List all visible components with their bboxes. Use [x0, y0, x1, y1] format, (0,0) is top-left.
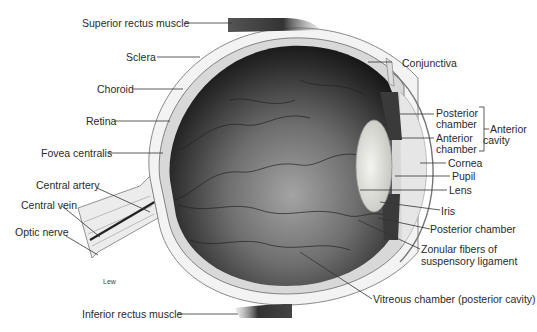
label-conjunctiva: Conjunctiva: [402, 57, 457, 69]
label-choroid: Choroid: [97, 83, 134, 95]
label-sclera: Sclera: [126, 51, 156, 63]
label-zonular-fibers-1: Zonular fibers of: [421, 243, 497, 255]
label-posterior-chamber-lower: Posterior chamber: [430, 223, 516, 235]
label-anterior-cavity-2: cavity: [483, 134, 510, 146]
label-lens: Lens: [449, 184, 472, 196]
label-posterior-chamber-upper-2: chamber: [436, 118, 477, 130]
superior-rectus-shape: [228, 18, 320, 32]
label-cornea: Cornea: [448, 157, 482, 169]
inferior-rectus-shape: [235, 304, 292, 318]
label-central-vein: Central vein: [21, 199, 77, 211]
label-vitreous-chamber: Vitreous chamber (posterior cavity): [373, 293, 536, 305]
label-superior-rectus-muscle: Superior rectus muscle: [82, 17, 189, 29]
label-anterior-chamber-2: chamber: [436, 143, 477, 155]
artist-signature: Lew: [103, 276, 116, 288]
label-inferior-rectus-muscle: Inferior rectus muscle: [82, 308, 182, 320]
label-iris: Iris: [441, 205, 455, 217]
label-optic-nerve: Optic nerve: [15, 226, 69, 238]
lens-shape: [356, 120, 392, 212]
label-central-artery: Central artery: [36, 179, 100, 191]
label-retina: Retina: [86, 115, 116, 127]
label-pupil: Pupil: [452, 170, 475, 182]
label-fovea-centralis: Fovea centralis: [41, 147, 112, 159]
label-zonular-fibers-2: suspensory ligament: [421, 255, 517, 267]
